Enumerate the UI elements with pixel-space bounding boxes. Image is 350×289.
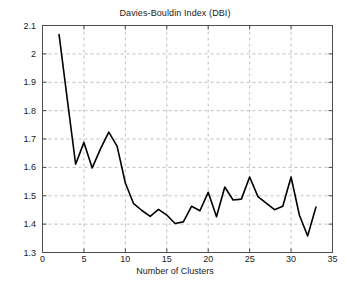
y-tick-label: 1.5 bbox=[10, 191, 36, 201]
y-tick-label: 1.8 bbox=[10, 106, 36, 116]
chart-canvas bbox=[0, 0, 350, 289]
y-tick-label: 1.4 bbox=[10, 219, 36, 229]
gridlines bbox=[43, 26, 333, 253]
x-tick-label: 25 bbox=[240, 254, 260, 264]
y-tick-label: 1.7 bbox=[10, 134, 36, 144]
y-tick-label: 2 bbox=[10, 49, 36, 59]
chart-figure: Davies-Bouldin Index (DBI) 1.31.41.51.61… bbox=[0, 0, 350, 289]
x-tick-label: 10 bbox=[115, 254, 135, 264]
x-axis-label: Number of Clusters bbox=[0, 266, 350, 276]
x-tick-label: 0 bbox=[33, 254, 53, 264]
x-tick-label: 30 bbox=[281, 254, 301, 264]
x-tick-label: 35 bbox=[323, 254, 343, 264]
x-tick-label: 15 bbox=[157, 254, 177, 264]
y-tick-label: 1.9 bbox=[10, 77, 36, 87]
dbi-line-series bbox=[59, 35, 316, 236]
y-tick-label: 1.6 bbox=[10, 162, 36, 172]
y-tick-label: 2.1 bbox=[10, 21, 36, 31]
x-tick-label: 20 bbox=[198, 254, 218, 264]
x-tick-label: 5 bbox=[74, 254, 94, 264]
